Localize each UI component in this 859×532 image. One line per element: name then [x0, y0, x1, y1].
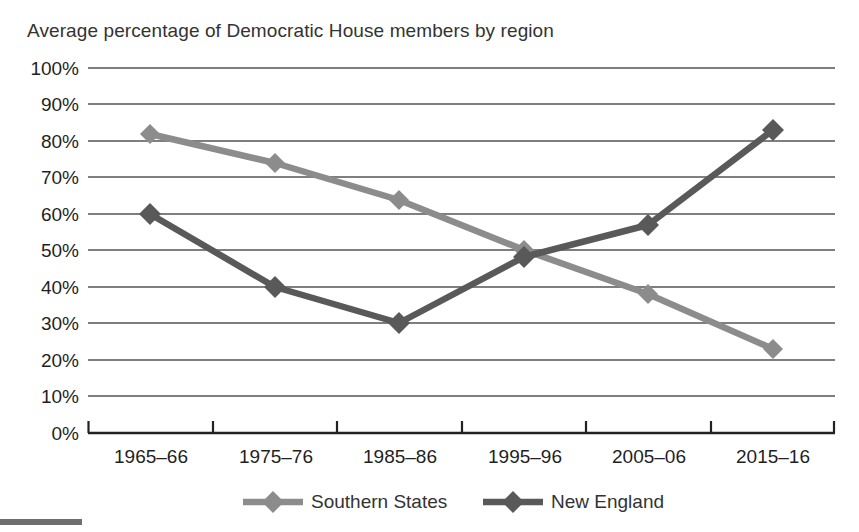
x-tick-label: 1975–76	[239, 446, 313, 467]
legend-label: New England	[551, 491, 664, 512]
legend-diamond-icon	[502, 491, 524, 513]
y-tick-label: 80%	[41, 131, 79, 152]
x-axis-tick-labels: 1965–66 1975–76 1985–86 1995–96 2005–06 …	[114, 446, 810, 467]
y-tick-label: 100%	[30, 58, 79, 79]
legend-item-new-england[interactable]: New England	[483, 491, 664, 513]
page-edge-bar	[0, 519, 82, 525]
y-tick-label: 30%	[41, 313, 79, 334]
data-point-marker	[265, 153, 285, 173]
y-tick-label: 70%	[41, 167, 79, 188]
y-tick-label: 90%	[41, 94, 79, 115]
line-chart-plot: 100% 90% 80% 70% 60% 50% 40% 30% 20% 10%…	[0, 0, 859, 532]
series-line-southern-states	[140, 124, 783, 359]
x-tick-label: 2015–16	[736, 446, 810, 467]
x-tick-label: 1995–96	[488, 446, 562, 467]
x-tick-label: 1985–86	[363, 446, 437, 467]
y-tick-label: 20%	[41, 350, 79, 371]
southern-states-markers	[140, 124, 783, 359]
y-tick-label: 10%	[41, 386, 79, 407]
x-tick-label: 2005–06	[612, 446, 686, 467]
legend-diamond-icon	[262, 491, 284, 513]
y-tick-label: 40%	[41, 277, 79, 298]
gridlines-group	[88, 68, 835, 396]
y-tick-label: 0%	[52, 423, 80, 444]
southern-states-line	[150, 134, 773, 349]
data-point-marker	[763, 339, 783, 359]
legend-label: Southern States	[311, 491, 447, 512]
chart-legend: Southern States New England	[243, 491, 664, 513]
y-tick-label: 60%	[41, 204, 79, 225]
legend-item-southern-states[interactable]: Southern States	[243, 491, 447, 513]
axis-lines	[88, 421, 835, 433]
x-tick-label: 1965–66	[114, 446, 188, 467]
y-tick-label: 50%	[41, 240, 79, 261]
chart-figure: Average percentage of Democratic House m…	[0, 0, 859, 532]
data-point-marker	[389, 190, 409, 210]
y-axis-tick-labels: 100% 90% 80% 70% 60% 50% 40% 30% 20% 10%…	[30, 58, 79, 444]
bleed-through-text	[150, 516, 710, 532]
